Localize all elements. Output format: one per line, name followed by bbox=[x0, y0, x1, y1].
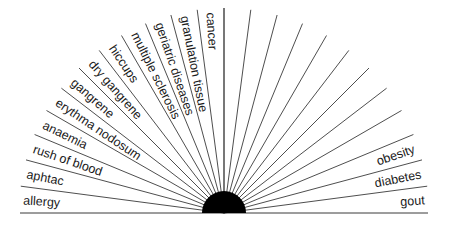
label-obesity: obesity bbox=[375, 142, 418, 168]
label-aphtac: aphtac bbox=[25, 167, 65, 188]
label-gout: gout bbox=[400, 193, 426, 209]
radial-fan-diagram: allergy aphtac rush of blood anaemia ery… bbox=[0, 0, 451, 226]
ray-line bbox=[224, 111, 402, 214]
ray-line bbox=[224, 10, 251, 213]
label-cancer: cancer bbox=[203, 12, 219, 50]
label-allergy: allergy bbox=[23, 193, 61, 209]
ray-line bbox=[224, 186, 427, 213]
ray-line bbox=[224, 24, 303, 213]
half-circle-hub bbox=[202, 191, 246, 213]
ray-line bbox=[224, 15, 277, 213]
ray-line bbox=[224, 36, 327, 214]
ray-line bbox=[224, 68, 369, 213]
right-label-group: gout diabetes obesity bbox=[373, 142, 425, 209]
